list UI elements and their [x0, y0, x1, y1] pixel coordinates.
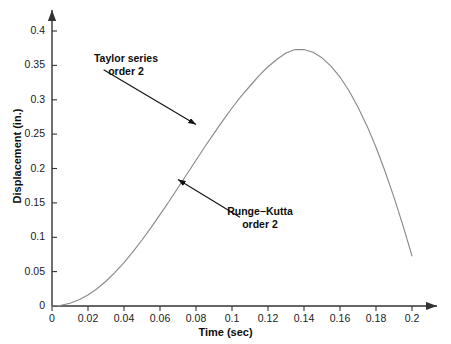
data-curve — [52, 50, 412, 306]
annotation-taylor-line2: order 2 — [108, 65, 144, 77]
x-tick-label: 0.06 — [140, 312, 180, 324]
y-axis-title-wrapper: Displacement (in.) — [11, 66, 27, 246]
x-tick-label: 0.02 — [68, 312, 108, 324]
y-tick-label: 0.05 — [0, 265, 45, 277]
annotation-runge-kutta: Runge−Kutta order 2 — [208, 205, 312, 231]
y-tick-label: 0 — [0, 299, 45, 311]
x-tick-label: 0.04 — [104, 312, 144, 324]
x-tick-label: 0.18 — [356, 312, 396, 324]
y-tick-label: 0.4 — [0, 24, 45, 36]
x-tick-label: 0.2 — [392, 312, 432, 324]
x-tick-label: 0.08 — [176, 312, 216, 324]
x-tick-label: 0.14 — [284, 312, 324, 324]
x-axis-title: Time (sec) — [0, 326, 451, 338]
plot-area — [0, 0, 451, 344]
x-tick-label: 0.16 — [320, 312, 360, 324]
x-tick-label: 0.12 — [248, 312, 288, 324]
annotation-rk-line1: Runge−Kutta — [227, 205, 293, 217]
annotation-rk-line2: order 2 — [242, 218, 278, 230]
annotation-taylor-line1: Taylor series — [94, 52, 158, 64]
x-tick-label: 0.1 — [212, 312, 252, 324]
x-tick-label: 0 — [32, 312, 72, 324]
chart-figure: 00.050.10.150.20.250.30.350.4 00.020.040… — [0, 0, 451, 344]
y-axis-ticks — [52, 31, 57, 306]
x-axis-ticks — [52, 306, 412, 311]
y-axis-title: Displacement (in.) — [11, 66, 23, 246]
annotation-taylor-series: Taylor series order 2 — [78, 52, 174, 78]
